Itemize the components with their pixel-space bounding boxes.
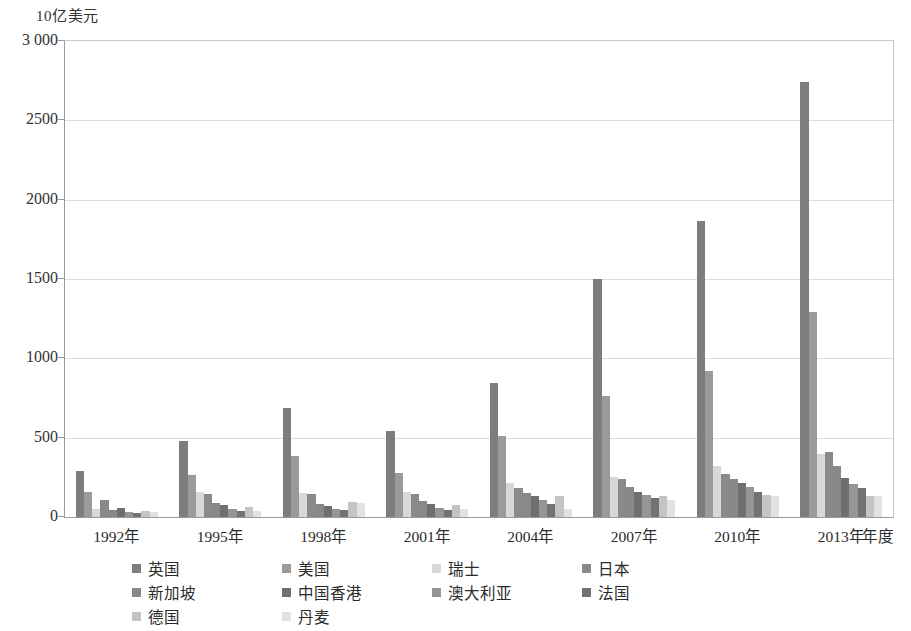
bar-group: [169, 41, 273, 517]
bar-group: [65, 41, 169, 517]
bar: [514, 488, 522, 517]
legend-label: 中国香港: [298, 581, 362, 603]
legend-swatch-icon: [132, 588, 141, 597]
y-axis-tick-label: 2500: [26, 110, 58, 128]
legend-label: 英国: [148, 557, 180, 579]
legend-swatch-icon: [582, 564, 591, 573]
bar: [245, 507, 253, 517]
bar: [117, 508, 125, 517]
legend-item[interactable]: 中国香港: [282, 581, 432, 603]
bar: [697, 221, 705, 517]
bar-group: [686, 41, 790, 517]
bar: [299, 493, 307, 517]
bar: [179, 441, 187, 517]
legend-label: 法国: [598, 581, 630, 603]
bar: [498, 436, 506, 517]
bar: [555, 496, 563, 517]
legend-label: 瑞士: [448, 557, 480, 579]
bar: [419, 501, 427, 517]
legend-item[interactable]: 德国: [132, 605, 282, 627]
bar: [610, 477, 618, 517]
bar: [212, 503, 220, 517]
legend-swatch-icon: [432, 564, 441, 573]
bar: [283, 408, 291, 517]
bar: [204, 494, 212, 517]
bar: [92, 509, 100, 517]
grouped-bar-chart: 10亿美元 050010001500200025003 000 1992年199…: [0, 0, 911, 631]
x-axis-tick-labels: 1992年1995年1998年2001年2004年2007年2010年2013年: [65, 524, 893, 550]
bar-group: [583, 41, 687, 517]
bar: [618, 479, 626, 517]
legend-item[interactable]: 美国: [282, 557, 432, 579]
bar: [395, 473, 403, 517]
legend-item[interactable]: 丹麦: [282, 605, 432, 627]
bar: [523, 493, 531, 517]
bar-group: [376, 41, 480, 517]
legend-item[interactable]: 瑞士: [432, 557, 582, 579]
bar: [705, 371, 713, 517]
bar: [460, 509, 468, 517]
x-axis-tick-label: 1995年: [169, 524, 273, 550]
bar: [253, 511, 261, 517]
x-axis-tick-label: 2007年: [583, 524, 687, 550]
bar: [188, 475, 196, 517]
y-axis-tick-label: 2000: [26, 190, 58, 208]
legend-item[interactable]: 澳大利亚: [432, 581, 582, 603]
bar: [427, 504, 435, 517]
legend-swatch-icon: [282, 564, 291, 573]
bar: [667, 500, 675, 517]
bar: [316, 504, 324, 517]
legend-label: 丹麦: [298, 605, 330, 627]
bar: [220, 505, 228, 517]
bar: [539, 500, 547, 517]
bar: [762, 495, 770, 517]
bar-group: [790, 41, 894, 517]
bar: [228, 509, 236, 517]
legend-swatch-icon: [282, 588, 291, 597]
bar: [332, 509, 340, 517]
bar: [817, 454, 825, 517]
legend-row: 英国美国瑞士日本: [132, 556, 732, 580]
y-axis-unit-title: 10亿美元: [36, 4, 99, 25]
legend-item[interactable]: 英国: [132, 557, 282, 579]
bar: [150, 512, 158, 517]
legend-row: 新加坡中国香港澳大利亚法国: [132, 580, 732, 604]
legend-label: 澳大利亚: [448, 581, 512, 603]
bar: [713, 466, 721, 517]
bar: [100, 500, 108, 517]
bar: [825, 452, 833, 517]
bar: [348, 502, 356, 517]
bar: [809, 312, 817, 517]
bar: [403, 492, 411, 517]
legend-item[interactable]: 日本: [582, 557, 732, 579]
bar: [386, 431, 394, 517]
bar: [531, 496, 539, 517]
x-axis-tick-label: 1998年: [272, 524, 376, 550]
bar: [340, 510, 348, 517]
bar: [849, 484, 857, 517]
x-axis-title: 年度: [862, 524, 894, 546]
legend-label: 日本: [598, 557, 630, 579]
legend-swatch-icon: [582, 588, 591, 597]
legend-item[interactable]: 法国: [582, 581, 732, 603]
bar: [659, 496, 667, 517]
bar: [634, 492, 642, 517]
bar: [866, 496, 874, 517]
bar: [307, 494, 315, 517]
bar: [730, 479, 738, 517]
bar: [291, 456, 299, 517]
x-axis-tick-label: 1992年: [65, 524, 169, 550]
legend-item[interactable]: 新加坡: [132, 581, 282, 603]
y-axis-tick-labels: 050010001500200025003 000: [0, 40, 58, 518]
legend-row: 德国丹麦: [132, 604, 732, 628]
bar: [800, 82, 808, 517]
bar: [196, 492, 204, 517]
bar: [602, 396, 610, 517]
bar: [506, 483, 514, 517]
bar: [490, 383, 498, 517]
bar: [746, 487, 754, 517]
bar: [435, 508, 443, 517]
y-axis-tick-label: 3 000: [22, 31, 58, 49]
bar: [452, 505, 460, 517]
bar: [133, 513, 141, 517]
